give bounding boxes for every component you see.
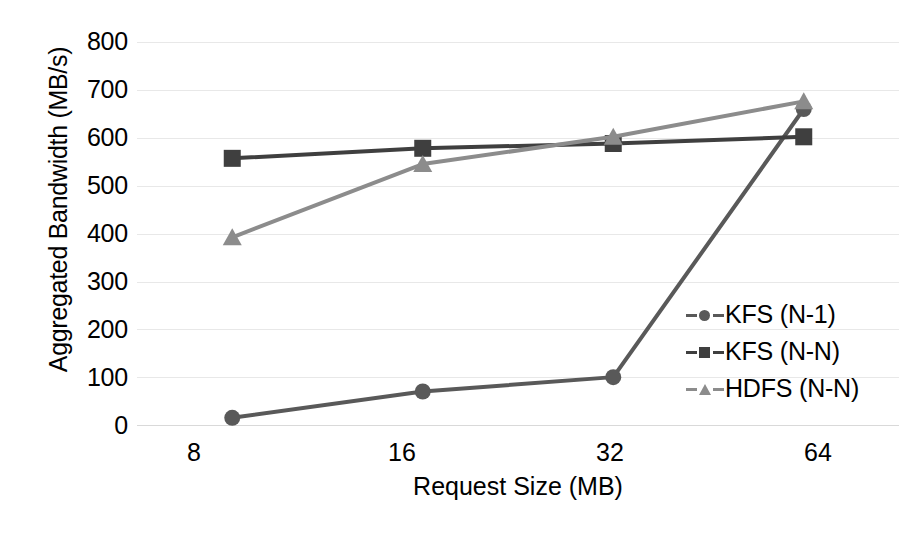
x-axis-title: Request Size (MB) [137, 472, 899, 501]
x-tick-label-8: 8 [149, 437, 239, 467]
legend-dash-right-icon [713, 388, 724, 391]
y-tick-label-0: 0 [0, 413, 128, 438]
legend-label-kfs-n-1: KFS (N-1) [725, 302, 836, 327]
x-tick-label-64: 64 [773, 437, 863, 467]
triangle-marker-icon [699, 384, 711, 395]
data-point-square [795, 128, 812, 145]
y-tick-label-200: 200 [0, 317, 128, 342]
square-marker-icon [699, 347, 710, 358]
gridline-0 [137, 425, 899, 426]
x-axis-tick-labels: 8 16 32 64 [137, 437, 899, 471]
legend-item-hdfs-n-n[interactable]: HDFS (N-N) [686, 370, 915, 407]
data-point-circle [605, 369, 621, 385]
y-tick-label-500: 500 [0, 173, 128, 198]
y-axis-tick-labels: 800 700 600 500 400 300 200 100 0 [0, 0, 128, 538]
legend-dash-right-icon [713, 351, 724, 354]
series-line [232, 101, 804, 237]
legend-item-kfs-n-1[interactable]: KFS (N-1) [686, 296, 915, 333]
legend-dash-left-icon [686, 388, 697, 391]
legend-dash-right-icon [713, 314, 724, 317]
legend-dash-left-icon [686, 314, 697, 317]
x-tick-label-16: 16 [357, 437, 447, 467]
chart-legend: KFS (N-1) KFS (N-N) HDFS (N-N) [686, 296, 915, 407]
legend-label-hdfs-n-n: HDFS (N-N) [725, 376, 859, 401]
y-tick-label-100: 100 [0, 365, 128, 390]
legend-key-kfs-n-n [686, 342, 724, 362]
data-point-circle [224, 410, 240, 426]
series-line [232, 137, 804, 159]
legend-item-kfs-n-n[interactable]: KFS (N-N) [686, 333, 915, 370]
data-point-square [414, 140, 431, 157]
legend-dash-left-icon [686, 351, 697, 354]
y-tick-label-800: 800 [0, 29, 128, 54]
y-tick-label-300: 300 [0, 269, 128, 294]
data-point-square [224, 150, 241, 167]
x-tick-label-32: 32 [565, 437, 655, 467]
y-tick-label-700: 700 [0, 77, 128, 102]
data-point-circle [415, 383, 431, 399]
legend-key-kfs-n-1 [686, 305, 724, 325]
y-tick-label-400: 400 [0, 221, 128, 246]
y-tick-label-600: 600 [0, 125, 128, 150]
legend-key-hdfs-n-n [686, 379, 724, 399]
bandwidth-line-chart: Aggregated Bandwidth (MB/s) 800 700 600 … [0, 0, 915, 538]
series-kfs-n-n [224, 128, 813, 167]
circle-marker-icon [699, 310, 710, 321]
legend-label-kfs-n-n: KFS (N-N) [725, 339, 840, 364]
